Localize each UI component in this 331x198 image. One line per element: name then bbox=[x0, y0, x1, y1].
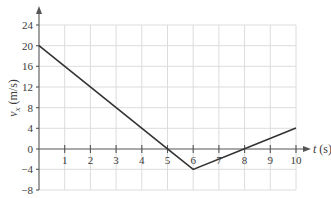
y-tick-label: 0 bbox=[28, 143, 34, 155]
y-tick-label: 24 bbox=[22, 19, 34, 31]
x-tick-label: 2 bbox=[88, 154, 94, 166]
x-tick-label: 1 bbox=[62, 154, 68, 166]
y-axis-label: vx (m/s) bbox=[6, 79, 22, 117]
y-tick-label: 8 bbox=[28, 102, 34, 114]
velocity-time-chart: 24 20 16 12 8 4 0 −4 −8 1 2 3 4 5 6 7 8 … bbox=[0, 0, 331, 198]
y-tick-label: 20 bbox=[22, 40, 34, 52]
x-tick-label: 8 bbox=[242, 154, 248, 166]
y-tick-label: −8 bbox=[21, 184, 33, 196]
x-tick-label: 4 bbox=[139, 154, 145, 166]
y-tick-label: −4 bbox=[21, 163, 33, 175]
x-axis-label: t (s) bbox=[313, 142, 331, 156]
x-tick-label: 6 bbox=[190, 154, 196, 166]
y-tick-label: 12 bbox=[22, 81, 33, 93]
x-tick-label: 3 bbox=[113, 154, 119, 166]
x-tick-label: 9 bbox=[268, 154, 274, 166]
y-axis-arrow-icon bbox=[36, 6, 42, 14]
x-axis-arrow-icon bbox=[303, 146, 311, 152]
y-tick-label: 4 bbox=[28, 122, 34, 134]
y-tick-label: 16 bbox=[22, 60, 34, 72]
x-tick-label: 5 bbox=[165, 154, 171, 166]
y-tick-labels: 24 20 16 12 8 4 0 −4 −8 bbox=[21, 19, 33, 196]
x-tick-label: 10 bbox=[291, 154, 303, 166]
